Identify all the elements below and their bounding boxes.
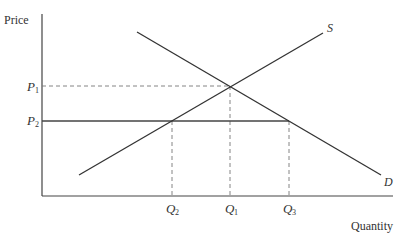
supply-label: S	[327, 21, 333, 35]
supply-curve	[79, 33, 323, 175]
q2-label: Q 2	[166, 201, 179, 217]
q1-label: Q 1	[225, 201, 238, 217]
svg-text:2: 2	[175, 208, 179, 217]
svg-text:2: 2	[35, 120, 39, 129]
demand-label: D	[383, 175, 393, 189]
svg-text:P: P	[26, 79, 35, 94]
p2-label: P 2	[26, 113, 39, 129]
p1-label: P 1	[26, 79, 39, 95]
y-axis-label: Price	[4, 13, 29, 27]
q3-label: Q 3	[283, 201, 296, 217]
svg-text:P: P	[26, 113, 35, 128]
supply-demand-diagram: Price Quantity S D P 1 P 2 Q 2 Q 1 Q 3	[0, 0, 411, 239]
x-axis-label: Quantity	[351, 219, 393, 233]
svg-text:1: 1	[234, 208, 238, 217]
svg-text:3: 3	[292, 208, 296, 217]
demand-curve	[137, 32, 381, 175]
svg-text:1: 1	[35, 86, 39, 95]
